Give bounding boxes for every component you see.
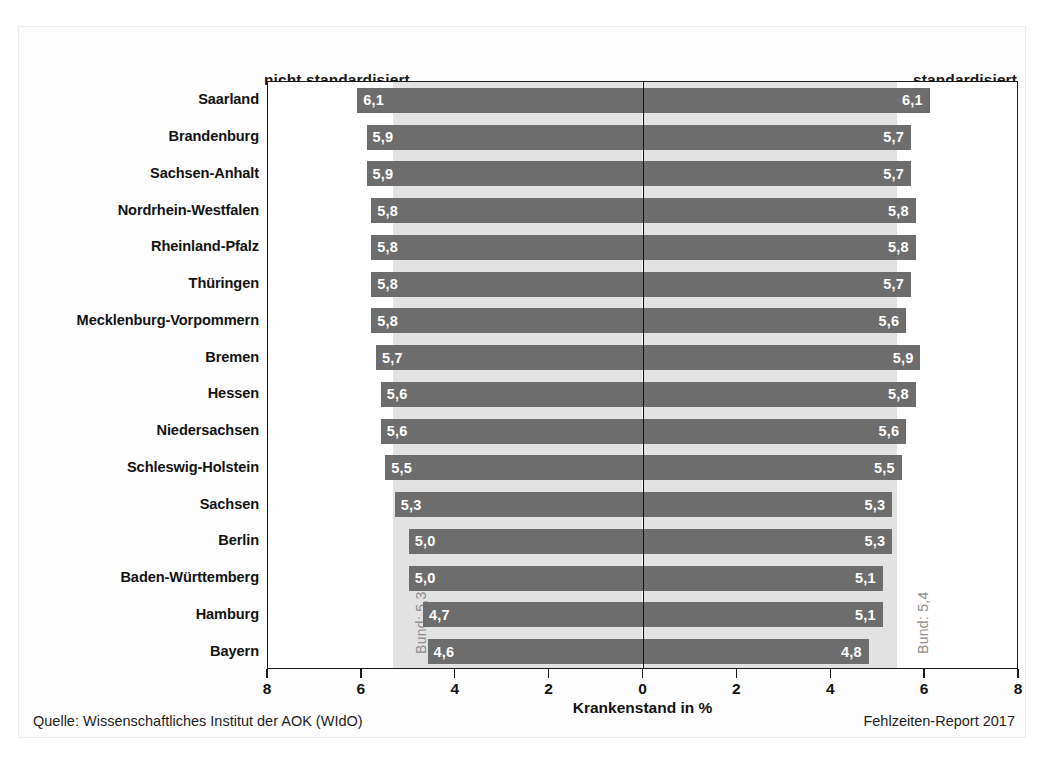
bar-left: 5,7 — [376, 345, 644, 370]
axis-tick-label: 4 — [450, 680, 459, 698]
bar-value-left: 5,0 — [415, 533, 436, 549]
bar-value-right: 4,8 — [841, 644, 862, 660]
plot-area: Bund: 5,3 Bund: 5,4 6,16,15,95,75,95,75,… — [267, 81, 1018, 669]
bar-value-left: 4,6 — [434, 644, 455, 660]
bar-right: 5,6 — [644, 308, 907, 333]
category-label: Schleswig-Holstein — [127, 459, 259, 475]
category-label: Mecklenburg-Vorpommern — [77, 312, 259, 328]
axis-tick-label: 8 — [1014, 680, 1023, 698]
bar-value-right: 5,7 — [883, 129, 904, 145]
bar-left: 5,0 — [409, 566, 644, 591]
bar-left: 5,8 — [371, 235, 643, 260]
category-label: Thüringen — [189, 275, 259, 291]
bar-left: 5,8 — [371, 308, 643, 333]
bar-left: 5,5 — [385, 455, 643, 480]
bar-right: 5,7 — [644, 125, 912, 150]
bar-right: 6,1 — [644, 88, 930, 113]
bar-value-right: 5,3 — [865, 533, 886, 549]
bar-right: 5,3 — [644, 492, 893, 517]
category-label: Baden-Württemberg — [120, 569, 259, 585]
bar-value-right: 5,5 — [874, 460, 895, 476]
bar-right: 4,8 — [644, 639, 869, 664]
bar-left: 5,3 — [395, 492, 644, 517]
source-note: Quelle: Wissenschaftliches Institut der … — [33, 713, 363, 729]
bar-value-right: 5,1 — [855, 607, 876, 623]
report-note: Fehlzeiten-Report 2017 — [863, 713, 1015, 729]
bar-left: 5,8 — [371, 198, 643, 223]
bar-value-right: 5,9 — [893, 350, 914, 366]
bar-value-right: 5,6 — [879, 423, 900, 439]
bar-value-left: 5,5 — [391, 460, 412, 476]
axis-tick-label: 4 — [826, 680, 835, 698]
bar-right: 5,1 — [644, 602, 883, 627]
axis-tick — [830, 669, 831, 678]
axis-tick-label: 8 — [263, 680, 272, 698]
bar-value-right: 5,8 — [888, 386, 909, 402]
category-label: Niedersachsen — [156, 422, 259, 438]
bar-value-left: 5,8 — [377, 313, 398, 329]
bar-value-left: 5,0 — [415, 570, 436, 586]
bar-right: 5,7 — [644, 161, 912, 186]
bar-value-left: 5,8 — [377, 276, 398, 292]
category-label: Brandenburg — [168, 128, 259, 144]
category-label: Hamburg — [196, 606, 259, 622]
axis-tick — [266, 669, 267, 678]
axis-tick — [1017, 669, 1018, 678]
reference-label-right: Bund: 5,4 — [915, 591, 931, 654]
bar-right: 5,1 — [644, 566, 883, 591]
bar-value-left: 6,1 — [363, 92, 384, 108]
bar-left: 4,7 — [423, 602, 644, 627]
bar-right: 5,5 — [644, 455, 902, 480]
bar-value-left: 5,9 — [373, 129, 394, 145]
category-axis-labels: SaarlandBrandenburgSachsen-AnhaltNordrhe… — [19, 81, 259, 669]
bar-left: 5,9 — [367, 125, 644, 150]
axis-tick-label: 0 — [638, 680, 647, 698]
bar-value-left: 5,6 — [387, 386, 408, 402]
bar-value-left: 4,7 — [429, 607, 450, 623]
axis-tick — [454, 669, 455, 678]
axis-tick-label: 2 — [544, 680, 553, 698]
bar-value-left: 5,8 — [377, 239, 398, 255]
axis-tick-label: 6 — [357, 680, 366, 698]
bar-left: 5,6 — [381, 419, 644, 444]
axis-tick-label: 2 — [732, 680, 741, 698]
bar-right: 5,9 — [644, 345, 921, 370]
bar-right: 5,8 — [644, 198, 916, 223]
bar-value-left: 5,8 — [377, 203, 398, 219]
chart-figure: nicht standardisiert standardisiert Saar… — [18, 26, 1026, 738]
bar-right: 5,8 — [644, 382, 916, 407]
bar-value-left: 5,7 — [382, 350, 403, 366]
bar-right: 5,7 — [644, 272, 912, 297]
category-label: Berlin — [218, 532, 259, 548]
bar-left: 4,6 — [428, 639, 644, 664]
bar-left: 5,6 — [381, 382, 644, 407]
bar-value-right: 5,7 — [883, 166, 904, 182]
bar-value-right: 5,6 — [879, 313, 900, 329]
bar-value-right: 5,3 — [865, 497, 886, 513]
category-label: Bremen — [205, 349, 259, 365]
axis-tick — [548, 669, 549, 678]
axis-tick — [736, 669, 737, 678]
bar-value-right: 5,1 — [855, 570, 876, 586]
bar-value-right: 5,8 — [888, 203, 909, 219]
category-label: Nordrhein-Westfalen — [118, 202, 259, 218]
bar-right: 5,8 — [644, 235, 916, 260]
bar-left: 5,0 — [409, 529, 644, 554]
bar-left: 5,9 — [367, 161, 644, 186]
bar-value-left: 5,6 — [387, 423, 408, 439]
axis-tick-label: 6 — [920, 680, 929, 698]
axis-tick — [923, 669, 924, 678]
bar-value-right: 5,8 — [888, 239, 909, 255]
zero-axis-line — [643, 82, 645, 668]
category-label: Sachsen — [200, 496, 259, 512]
bar-right: 5,3 — [644, 529, 893, 554]
bar-value-right: 5,7 — [883, 276, 904, 292]
bar-left: 6,1 — [357, 88, 643, 113]
bar-value-right: 6,1 — [902, 92, 923, 108]
bar-value-left: 5,9 — [373, 166, 394, 182]
category-label: Sachsen-Anhalt — [150, 165, 259, 181]
axis-tick — [360, 669, 361, 678]
bar-right: 5,6 — [644, 419, 907, 444]
bar-left: 5,8 — [371, 272, 643, 297]
category-label: Hessen — [208, 385, 259, 401]
